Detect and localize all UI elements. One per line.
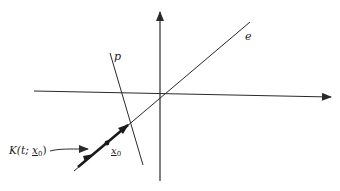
horizontal-axis bbox=[34, 91, 331, 97]
x0-label-sub: 0 bbox=[117, 150, 121, 158]
point-x0 bbox=[105, 141, 110, 146]
k-label-main: K(t; bbox=[8, 144, 32, 156]
label-k-trajectory: K(t; x0) bbox=[8, 144, 47, 158]
trajectory-arrow-lower-icon bbox=[83, 154, 94, 162]
label-p: p bbox=[114, 50, 121, 63]
label-x0: x0 bbox=[111, 145, 121, 158]
phase-diagram: e p K(t; x0) x0 bbox=[0, 0, 340, 191]
k-pointer-line bbox=[50, 149, 88, 151]
label-e: e bbox=[245, 30, 252, 43]
k-label-close: ) bbox=[42, 144, 46, 156]
